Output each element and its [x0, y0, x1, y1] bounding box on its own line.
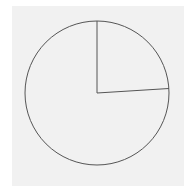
pie-chart: [0, 0, 191, 193]
slice-divider: [97, 89, 169, 94]
